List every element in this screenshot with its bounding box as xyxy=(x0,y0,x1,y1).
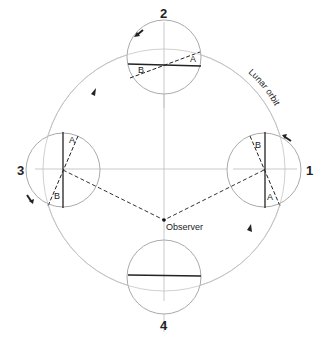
position-2-label: 2 xyxy=(160,6,167,21)
marker-b-label: B xyxy=(138,65,144,75)
marker-b-label: B xyxy=(255,140,261,150)
marker-a-label: A xyxy=(190,54,196,64)
moon-position-3: A B 3 xyxy=(17,132,100,208)
rotation-arrow-icon xyxy=(27,195,31,201)
marker-b-label: B xyxy=(54,191,60,201)
observer-label: Observer xyxy=(166,222,203,232)
lunar-orbit-diagram: B A 2 B A 1 A B 3 4 xyxy=(0,0,324,342)
marker-a-label: A xyxy=(267,192,273,202)
marker-a-label: A xyxy=(69,135,75,145)
orbit-arrow-icon xyxy=(91,88,96,96)
position-3-label: 3 xyxy=(17,163,24,178)
moon-position-2: B A 2 xyxy=(127,6,201,108)
orbit-arrow-icon xyxy=(247,224,252,232)
position-1-label: 1 xyxy=(306,163,313,178)
position-4-label: 4 xyxy=(160,318,168,333)
moon-position-1: B A 1 xyxy=(227,132,313,208)
moon-position-4: 4 xyxy=(127,240,201,333)
